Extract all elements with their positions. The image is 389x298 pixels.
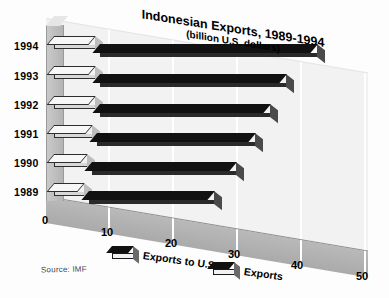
wall-gridline-40	[300, 62, 302, 244]
bar-exports-1991[interactable]	[97, 133, 256, 142]
chart-left-wall	[46, 25, 64, 201]
y-axis-label-1990: 1990	[14, 157, 39, 169]
y-axis-label-1993: 1993	[14, 70, 39, 82]
bar-exports-1993[interactable]	[100, 74, 287, 83]
y-axis-label-1991: 1991	[14, 128, 39, 140]
legend-swatch-exports-to-us	[112, 246, 134, 258]
y-axis-label-1989: 1989	[14, 186, 39, 198]
legend-swatch-exports	[213, 262, 235, 274]
wall-gridline-50	[364, 73, 366, 255]
bar-exports-to-us-1993[interactable]	[54, 66, 96, 75]
x-axis-tick-20: 20	[165, 237, 177, 249]
bar-exports-1992[interactable]	[100, 104, 271, 113]
x-axis-tick-40: 40	[291, 259, 303, 271]
x-axis-tick-30: 30	[228, 248, 240, 260]
x-axis-tick-0: 0	[42, 214, 48, 226]
source-note: Source: IMF	[41, 265, 87, 275]
y-axis-label-1992: 1992	[14, 99, 39, 111]
bar-exports-to-us-1994[interactable]	[54, 36, 96, 45]
bar-exports-to-us-1989[interactable]	[54, 183, 85, 192]
x-axis-tick-10: 10	[101, 226, 113, 238]
bar-exports-1989[interactable]	[89, 191, 215, 200]
bar-exports-1990[interactable]	[92, 162, 237, 171]
bar-exports-to-us-1991[interactable]	[54, 125, 93, 134]
chart-canvas: 1994 1993 1992 1991 1990 1989 0 10 20 30…	[0, 0, 389, 298]
bar-exports-to-us-1990[interactable]	[54, 154, 88, 163]
y-axis-label-1994: 1994	[14, 40, 39, 52]
bar-exports-to-us-1992[interactable]	[54, 96, 96, 105]
x-axis-tick-50: 50	[356, 270, 368, 282]
